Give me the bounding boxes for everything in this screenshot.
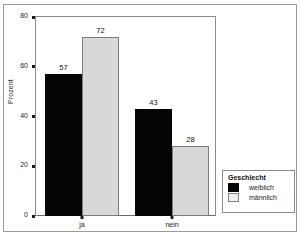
y-tick-label-0: 0 [24,211,28,218]
bar-ja-weiblich[interactable]: 57 [45,74,82,216]
legend: Geschlecht weiblich männlich [222,170,295,213]
y-tick-mark-40 [32,115,35,118]
chart-screenshot: Prozent 80 60 40 20 0 57 72 43 28 [0,0,303,237]
x-tick-label-nein: nein [165,221,178,228]
x-tick-label-ja: ja [79,221,84,228]
legend-label-maennlich: männlich [249,194,277,201]
plot-area: 57 72 43 28 [36,17,215,216]
bar-value-nein-maennlich: 28 [186,135,194,144]
y-tick-mark-20 [32,165,35,168]
y-tick-mark-80 [32,16,35,19]
y-tick-label-40: 40 [20,112,28,119]
y-tick-mark-0 [32,215,35,218]
legend-item-weiblich[interactable]: weiblich [228,183,290,192]
bar-value-nein-weiblich: 43 [149,98,157,107]
y-tick-label-80: 80 [20,12,28,19]
legend-swatch-weiblich [228,183,239,192]
bar-value-ja-weiblich: 57 [59,63,67,72]
legend-swatch-maennlich [228,193,239,202]
y-tick-label-20: 20 [20,161,28,168]
bar-value-ja-maennlich: 72 [96,26,104,35]
bar-ja-maennlich[interactable]: 72 [82,37,119,216]
y-tick-label-60: 60 [20,62,28,69]
legend-title: Geschlecht [228,174,290,181]
x-tick-mark-nein [171,216,174,219]
y-axis-title: Prozent [7,62,14,122]
x-tick-mark-ja [81,216,84,219]
legend-label-weiblich: weiblich [249,184,274,191]
bar-nein-maennlich[interactable]: 28 [172,146,209,216]
legend-item-maennlich[interactable]: männlich [228,193,290,202]
y-tick-mark-60 [32,65,35,68]
bar-nein-weiblich[interactable]: 43 [135,109,172,216]
